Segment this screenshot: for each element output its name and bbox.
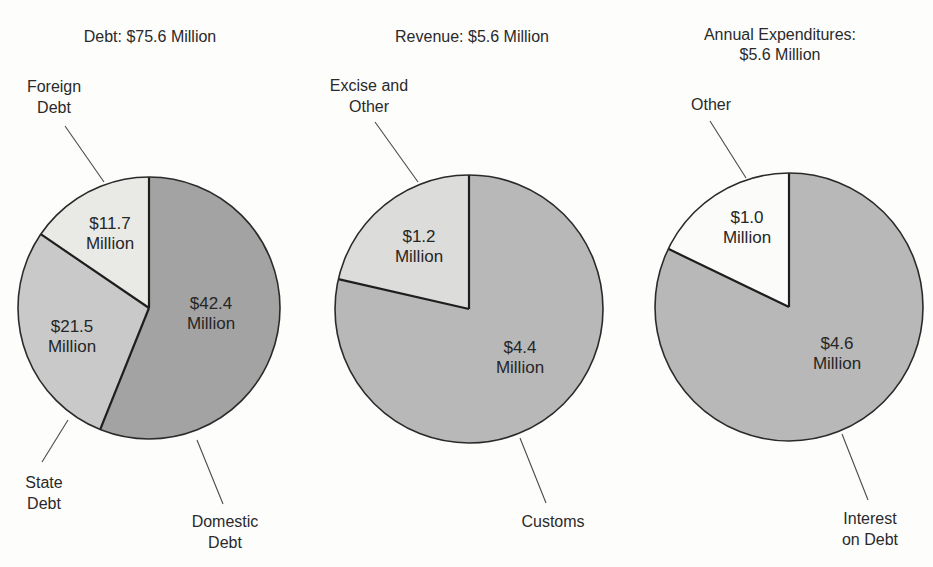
callout-excise-other: Excise and Other	[314, 75, 424, 117]
label-interest-on-debt: $4.6 Million	[797, 334, 877, 374]
leader-excise-other	[375, 122, 418, 182]
callout-domestic-debt: Domestic Debt	[170, 511, 280, 553]
label-state-debt: $21.5 Million	[32, 317, 112, 357]
expenditures-chart-title: Annual Expenditures: $5.6 Million	[655, 25, 905, 65]
debt-chart-title: Debt: $75.6 Million	[40, 27, 260, 47]
callout-state-debt: State Debt	[4, 472, 84, 514]
pie-charts-canvas	[0, 0, 933, 567]
label-customs: $4.4 Million	[480, 338, 560, 378]
leader-other	[710, 121, 746, 178]
callout-foreign-debt: Foreign Debt	[14, 76, 94, 118]
label-domestic-debt: $42.4 Million	[171, 294, 251, 334]
label-foreign-debt: $11.7 Million	[70, 214, 150, 254]
leader-customs	[520, 438, 546, 503]
leader-state-debt	[42, 420, 68, 462]
label-excise-other: $1.2 Million	[379, 227, 459, 267]
leader-interest	[842, 434, 868, 500]
leader-domestic-debt	[197, 440, 223, 504]
expenditures-pie	[655, 173, 923, 441]
callout-other: Other	[676, 94, 746, 115]
callout-customs: Customs	[503, 511, 603, 532]
leader-foreign-debt	[65, 126, 104, 182]
label-other: $1.0 Million	[707, 208, 787, 248]
revenue-pie	[335, 175, 603, 443]
callout-interest-on-debt: Interest on Debt	[825, 508, 915, 550]
revenue-chart-title: Revenue: $5.6 Million	[352, 27, 592, 47]
pie-chart-figure: Debt: $75.6 Million Foreign Debt State D…	[0, 0, 933, 567]
